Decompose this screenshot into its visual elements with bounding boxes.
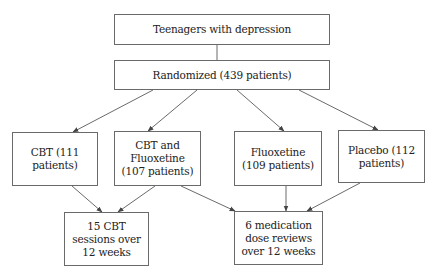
- node-fluoxetine-arm: Fluoxetine (109 patients): [234, 131, 322, 186]
- node-cbt-sessions: 15 CBT sessions over 12 weeks: [64, 212, 149, 266]
- node-cbt-fluoxetine-arm: CBT and Fluoxetine (107 patients): [114, 131, 201, 186]
- edge-randomized-to-fluoxetine: [237, 90, 284, 131]
- edge-randomized-to-cbt: [73, 90, 153, 132]
- edge-randomized-to-cbt-fluoxetine: [148, 90, 197, 131]
- node-placebo-arm: Placebo (112 patients): [338, 130, 425, 183]
- flowchart-diagram: Teenagers with depression Randomized (43…: [0, 0, 433, 274]
- edge-placebo-to-medication-reviews: [307, 183, 360, 211]
- node-randomized: Randomized (439 patients): [114, 60, 330, 90]
- node-medication-reviews: 6 medication dose reviews over 12 weeks: [234, 211, 323, 265]
- edge-randomized-to-placebo: [299, 90, 378, 130]
- node-cbt-arm: CBT (111 patients): [12, 132, 98, 186]
- edge-cbt-fluoxetine-to-cbt-sessions: [118, 186, 155, 212]
- edge-cbt-to-cbt-sessions: [72, 186, 102, 212]
- node-population: Teenagers with depression: [114, 14, 330, 45]
- edge-cbt-fluoxetine-to-medication-reviews: [181, 186, 235, 211]
